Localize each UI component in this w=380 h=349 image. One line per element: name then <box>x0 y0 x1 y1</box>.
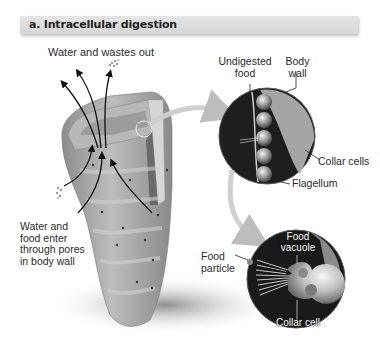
label-flagellum: Flagellum <box>292 178 338 190</box>
label-line: Water and <box>20 221 85 233</box>
label-line: Food <box>201 251 235 263</box>
label-water-wastes-out: Water and wastes out <box>48 47 154 59</box>
label-line: Body <box>280 56 315 68</box>
label-line: through pores <box>20 244 85 256</box>
label-line: wall <box>280 68 315 80</box>
label-line: in body wall <box>20 256 85 268</box>
label-food-particle: Food particle <box>201 251 235 274</box>
label-body-wall: Body wall <box>280 56 315 79</box>
label-collar-cell: Collar cell <box>270 317 326 328</box>
collar-cells-closeup <box>219 72 320 184</box>
label-collar-cells: Collar cells <box>318 156 369 168</box>
label-undigested-food: Undigested food <box>215 56 275 79</box>
label-line: Food <box>276 231 320 242</box>
label-line: particle <box>201 263 235 275</box>
label-line: food <box>215 68 275 80</box>
label-line: vacuole <box>276 242 320 253</box>
label-line: Undigested <box>215 56 275 68</box>
label-water-food-enter: Water and food enter through pores in bo… <box>20 221 85 267</box>
label-food-vacuole: Food vacuole <box>276 231 320 253</box>
